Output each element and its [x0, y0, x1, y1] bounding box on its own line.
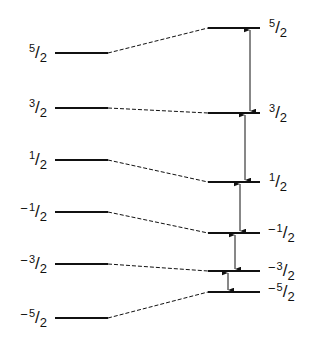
fraction: 1/2: [277, 223, 295, 240]
fraction: 3/2: [277, 261, 295, 278]
sign: −: [20, 307, 28, 322]
denominator: 2: [40, 209, 47, 224]
left-level-label: −3/2: [20, 254, 47, 271]
denominator: 2: [40, 157, 47, 172]
right-level-label: 3/2: [268, 103, 287, 120]
left-level-label: 1/2: [28, 150, 47, 167]
fraction: 5/2: [29, 43, 47, 60]
connector-dashed-line: [108, 264, 208, 271]
fraction: 5/2: [29, 308, 47, 325]
denominator: 2: [280, 179, 287, 194]
denominator: 2: [287, 289, 294, 304]
fraction: 1/2: [29, 202, 47, 219]
left-level-label: −1/2: [20, 202, 47, 219]
fraction: 3/2: [29, 98, 47, 115]
denominator: 2: [40, 315, 47, 330]
denominator: 2: [40, 50, 47, 65]
fraction: 1/2: [269, 172, 287, 189]
denominator: 2: [287, 230, 294, 245]
connector-dashed-line: [108, 160, 208, 182]
denominator: 2: [280, 110, 287, 125]
fraction: 1/2: [29, 150, 47, 167]
sign: −: [20, 253, 28, 268]
sign: −: [20, 201, 28, 216]
sign: −: [268, 260, 276, 275]
left-level-label: 3/2: [28, 98, 47, 115]
right-level-label: −3/2: [268, 261, 295, 278]
denominator: 2: [287, 268, 294, 283]
sign: −: [268, 281, 276, 296]
sign: −: [268, 222, 276, 237]
connector-dashed-line: [108, 212, 208, 233]
fraction: 3/2: [269, 103, 287, 120]
denominator: 2: [40, 105, 47, 120]
right-level-label: 1/2: [268, 172, 287, 189]
right-level-label: −5/2: [268, 282, 295, 299]
right-level-label: −1/2: [268, 223, 295, 240]
right-level-label: 5/2: [268, 18, 287, 35]
fraction: 3/2: [29, 254, 47, 271]
connector-dashed-line: [108, 28, 208, 53]
left-level-label: −5/2: [20, 308, 47, 325]
fraction: 5/2: [269, 18, 287, 35]
connector-dashed-line: [108, 292, 208, 318]
left-level-label: 5/2: [28, 43, 47, 60]
fraction: 5/2: [277, 282, 295, 299]
connector-dashed-line: [108, 108, 208, 113]
denominator: 2: [40, 261, 47, 276]
denominator: 2: [280, 25, 287, 40]
